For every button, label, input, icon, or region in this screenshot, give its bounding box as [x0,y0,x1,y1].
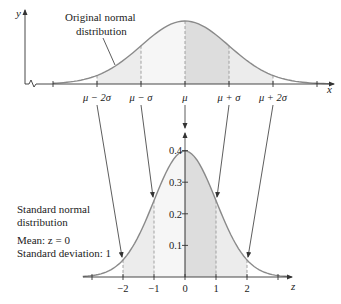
top-y-axis-label: y [15,7,21,19]
top-title-pointer [103,38,115,65]
bottom-x-tick-label: 2 [244,283,249,294]
top-x-axis-label: x [326,83,332,95]
arrow-mu-minus-sigma [141,105,153,197]
arrow-mu-plus-sigma [217,105,229,197]
bottom-y-tick-label: 0.2 [169,209,182,220]
bottom-y-tick-label: 0.3 [169,177,182,188]
original-distribution-chart: y x Original normal distribution μ − 2σ … [15,7,334,103]
bottom-x-tick-label: −1 [148,283,159,294]
top-tick-label-mu-plus-2sigma: μ + 2σ [258,92,288,103]
standard-normal-params: Mean: z = 0 Standard deviation: 1 [17,234,111,260]
top-tick-label-mu-minus-2sigma: μ − 2σ [82,92,112,103]
standard-normal-title: Standard normal distribution [17,203,90,229]
bottom-shade-inner-right [185,151,216,277]
bottom-x-tick-label: 0 [182,283,187,294]
top-title-line1: Original normal [65,11,136,23]
bottom-x-axis-label: z [290,280,296,292]
bottom-y-tick-label: 0.4 [169,145,183,156]
bottom-y-tick-label: 0.1 [169,240,182,251]
top-tick-label-mu: μ [181,92,187,103]
top-tick-label-mu-plus-sigma: μ + σ [217,92,242,103]
sd-label: Standard deviation: 1 [17,247,111,260]
top-tick-label-mu-minus-sigma: μ − σ [129,92,154,103]
top-shade-inner-left [141,21,185,84]
mean-label: Mean: z = 0 [17,234,111,247]
top-title-line2: distribution [76,25,127,37]
bottom-x-tick-label: −2 [117,283,128,294]
diagram: y x Original normal distribution μ − 2σ … [0,0,341,304]
bottom-x-tick-label: 1 [213,283,218,294]
standard-normal-chart: z −2 −1 0 1 2 0.1 0.2 0.3 0.4 [83,145,296,294]
axis-break-icon [25,80,39,87]
standard-normal-title-line2: distribution [17,216,90,229]
arrow-mu-plus-2sigma [248,105,273,257]
top-shade-inner-right [185,21,229,84]
standard-normal-title-line1: Standard normal [17,203,90,216]
